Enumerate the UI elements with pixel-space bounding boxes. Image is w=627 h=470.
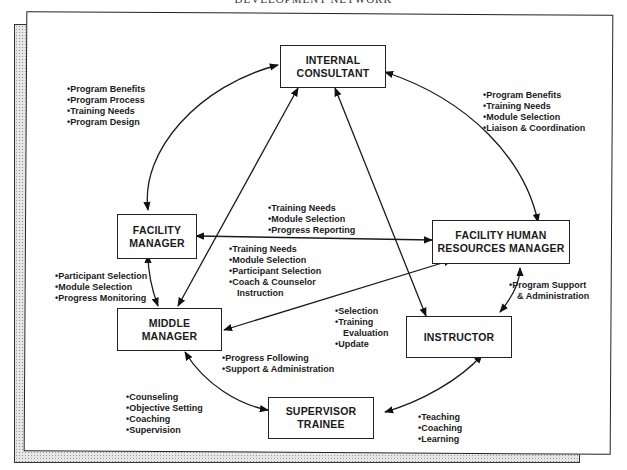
label-hr-middle: Training Needs Module Selection Particip…: [229, 244, 321, 299]
node-supervisor-trainee: SUPERVISORTRAINEE: [268, 397, 374, 439]
label-consultant-hr-manager: Program Benefits Training Needs Module S…: [483, 90, 585, 134]
arrow-consultant-facility-manager: [147, 65, 278, 210]
arrow-facility-hr: [196, 236, 432, 240]
label-supervisor-roles: Counseling Objective Setting Coaching Su…: [126, 392, 203, 436]
label-consultant-facility-manager: Program Benefits Program Process Trainin…: [67, 84, 145, 128]
node-facility-manager: FACILITYMANAGER: [117, 214, 197, 259]
label-consultant-instructor: Selection Training Evaluation Update: [335, 306, 389, 350]
label-hr-instructor: Program Support & Administration: [509, 280, 589, 302]
node-middle-manager: MIDDLEMANAGER: [117, 308, 222, 351]
node-instructor: INSTRUCTOR: [406, 316, 512, 358]
label-instructor-supervisor: Teaching Coaching Learning: [418, 412, 462, 445]
arrow-facility-middle: [148, 255, 158, 306]
node-facility-hr-manager: FACILITY HUMANRESOURCES MANAGER: [432, 220, 570, 264]
label-middle-supervisor: Progress Following Support & Administrat…: [222, 353, 334, 375]
node-internal-consultant: INTERNALCONSULTANT: [280, 45, 386, 88]
label-facility-middle: Participant Selection Module Selection P…: [55, 271, 147, 304]
arrow-supervisor-instructor: [385, 355, 482, 412]
label-facility-hr: Training Needs Module Selection Progress…: [268, 203, 355, 236]
